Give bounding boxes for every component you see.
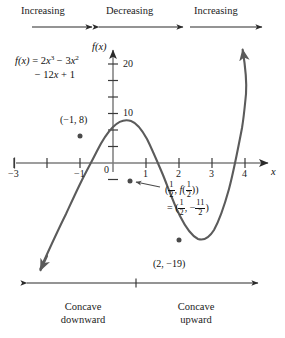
x-tick-label-1: 1 xyxy=(143,168,148,179)
inflection-leader-line xyxy=(136,182,160,187)
relative-maximum-dot xyxy=(78,134,83,139)
origin-label: 0 xyxy=(104,164,109,175)
monotonicity-label-increasing-2: Increasing xyxy=(194,5,238,16)
function-equation: f(x) = 2x3 − 3x2 − 12x + 1 xyxy=(15,54,79,82)
concavity-downward-line2: downward xyxy=(42,313,124,326)
concavity-upward-line2: upward xyxy=(155,313,237,326)
y-tick-label-10: 10 xyxy=(123,107,133,118)
relative-maximum-label: (−1, 8) xyxy=(60,114,87,125)
concavity-upward-line1: Concave xyxy=(155,300,237,313)
concavity-label-upward: Concave upward xyxy=(155,300,237,326)
x-tick-label-neg3: −3 xyxy=(8,168,19,179)
monotonicity-label-decreasing: Decreasing xyxy=(106,5,153,16)
figure-canvas: Increasing Decreasing Increasing f(x) = … xyxy=(0,0,285,338)
function-curve xyxy=(40,50,246,271)
concavity-downward-line1: Concave xyxy=(42,300,124,313)
x-tick-label-2: 2 xyxy=(176,168,181,179)
y-tick-label-20: 20 xyxy=(123,58,133,69)
y-axis-label: f(x) xyxy=(92,41,107,52)
x-axis-label: x xyxy=(271,166,276,177)
y-axis xyxy=(108,50,118,180)
x-axis xyxy=(14,158,268,169)
concavity-arrow xyxy=(27,279,258,288)
x-tick-label-3: 3 xyxy=(209,168,214,179)
monotonicity-label-increasing-1: Increasing xyxy=(21,5,65,16)
inflection-point-label-1: (12, f(12)) xyxy=(165,181,199,199)
relative-minimum-label: (2, −19) xyxy=(153,258,185,269)
x-tick-label-neg1: −1 xyxy=(74,168,85,179)
relative-minimum-dot xyxy=(177,238,182,243)
inflection-point-label-2: = (12, −112) xyxy=(167,199,209,217)
x-tick-label-4: 4 xyxy=(242,168,247,179)
concavity-label-downward: Concave downward xyxy=(42,300,124,326)
inflection-point-dot xyxy=(128,179,133,184)
